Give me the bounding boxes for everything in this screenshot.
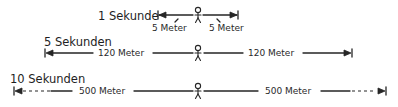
row-1-left-leader xyxy=(175,19,178,22)
row-2-right-label: 120 Meter xyxy=(248,48,294,58)
row-1-right-label: 5 Meter xyxy=(209,23,244,33)
stick-figure-icon xyxy=(195,45,201,60)
row-2-seconds: 5 Sekunden 120 Meter 120 Meter xyxy=(44,35,352,61)
stick-figure-icon xyxy=(195,83,201,98)
row-2-left-label: 120 Meter xyxy=(98,48,144,58)
row-1-right-arrow xyxy=(203,11,238,19)
row-1-title: 1 Sekunde xyxy=(98,9,159,23)
row-1-left-arrow xyxy=(158,11,193,19)
row-3-left-label: 500 Meter xyxy=(79,86,125,96)
row-2-title: 5 Sekunden xyxy=(44,35,112,49)
row-3-right-label: 500 Meter xyxy=(265,86,311,96)
row-3-seconds: 10 Sekunden 500 Meter 500 Meter xyxy=(10,72,386,99)
row-1-left-label: 5 Meter xyxy=(152,23,187,33)
distance-diagram: 1 Sekunde 5 Meter 5 Meter 5 Sekunden xyxy=(0,0,398,107)
row-1-right-leader xyxy=(217,19,220,22)
stick-figure-icon xyxy=(195,7,201,22)
row-3-title: 10 Sekunden xyxy=(10,72,85,86)
row-1-seconds: 1 Sekunde 5 Meter 5 Meter xyxy=(98,7,244,33)
